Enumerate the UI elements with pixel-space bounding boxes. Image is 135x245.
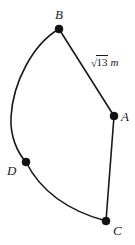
unit-label: m <box>111 56 119 68</box>
radicand-value: 13 <box>96 55 108 68</box>
vertex-dot-d <box>22 158 30 166</box>
vertex-dot-c <box>102 217 110 225</box>
vertex-label-a: A <box>121 110 129 123</box>
vertex-label-b: B <box>55 8 63 21</box>
vertex-label-d: D <box>7 164 16 177</box>
edge-arc-b-to-d <box>11 29 59 162</box>
vertex-dot-b <box>55 25 63 33</box>
vertex-label-c: C <box>113 224 122 237</box>
geometry-figure-canvas: B A C D √13m <box>0 0 135 245</box>
geometry-figure-svg <box>0 0 135 245</box>
vertex-dot-a <box>110 112 118 120</box>
edge-line-a-to-c <box>106 116 114 221</box>
edge-length-label-ba: √13m <box>91 57 119 68</box>
edge-line-b-to-a <box>59 29 114 116</box>
radical-sign-icon: √ <box>91 57 97 69</box>
edge-arc-d-to-c <box>26 162 106 221</box>
